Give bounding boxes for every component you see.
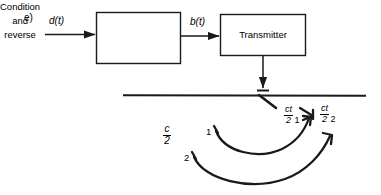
block-line: reverse	[4, 28, 36, 42]
fraction-denominator: 2	[285, 116, 292, 126]
half-c-annotation: c 2	[163, 124, 171, 146]
block-line: Transmitter	[239, 28, 287, 42]
wavefront-label-1: 1	[206, 126, 211, 137]
intermediate-signal-label: b(t)	[190, 17, 205, 27]
figure-canvas: e) d(t) b(t) Condition and reverse Trans…	[0, 0, 381, 195]
fraction-stack: c 2	[163, 124, 171, 146]
fraction-index: 2	[329, 114, 336, 124]
block-line: Condition	[0, 0, 40, 14]
fraction-stack: ct 2	[320, 104, 329, 124]
fraction-index: 1	[293, 115, 300, 125]
interface-surface-line	[123, 95, 366, 96]
fraction-numerator: ct	[284, 105, 293, 115]
fraction-denominator: 2	[321, 115, 328, 125]
fraction-stack: ct 2	[284, 105, 293, 125]
fraction-numerator: c	[164, 124, 171, 135]
emission-tick	[259, 95, 276, 108]
wavefront-arc-2	[194, 136, 330, 184]
wavefront-label-2: 2	[184, 152, 189, 163]
block-condition-and-reverse	[97, 13, 181, 64]
block-line: and	[12, 14, 28, 28]
fraction-numerator: ct	[320, 104, 329, 114]
block-condition-and-reverse-label: Condition and reverse	[0, 0, 40, 41]
fraction-denominator: 2	[163, 136, 171, 147]
input-signal-label: d(t)	[49, 16, 64, 26]
block-transmitter-label: Transmitter	[221, 15, 305, 55]
range-1-annotation: ct 2 1	[284, 105, 300, 125]
diagram-vector-layer	[0, 0, 381, 195]
range-2-annotation: ct 2 2	[320, 104, 336, 124]
